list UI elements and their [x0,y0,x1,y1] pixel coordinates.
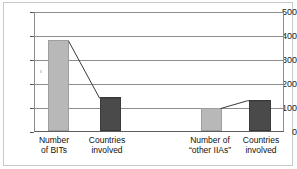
gridline-300 [35,60,283,61]
chart-figure: 500 400 300 200 100 0 Number of BITs Cou… [0,0,297,169]
x-category-label-0-line-2: of BITs [33,145,75,155]
x-category-label-0-line-1: Number [33,135,75,145]
bar-number-of-bits[interactable] [48,40,69,131]
x-category-label-3: Countries involved [235,135,287,155]
x-category-label-1: Countries involved [82,135,132,155]
x-category-label-0: Number of BITs [33,135,75,155]
x-category-label-2-line-2: “other IIAs” [181,145,239,155]
x-category-label-2-line-1: Number of [181,135,239,145]
connector-lines [35,13,283,131]
y-tick-mark-0 [30,132,34,133]
x-category-label-1-line-2: involved [82,145,132,155]
plot-area [34,12,284,132]
image-speck [40,70,42,73]
gridline-100 [35,108,283,109]
x-category-label-2: Number of “other IIAs” [181,135,239,155]
bar-countries-involved-other-iias[interactable] [249,100,271,131]
x-category-label-3-line-2: involved [235,145,287,155]
bar-countries-involved-bits[interactable] [100,97,121,131]
gridline-200 [35,84,283,85]
x-category-label-1-line-1: Countries [82,135,132,145]
bar-number-of-other-iias[interactable] [201,108,222,131]
gridline-400 [35,36,283,37]
x-category-label-3-line-1: Countries [235,135,287,145]
